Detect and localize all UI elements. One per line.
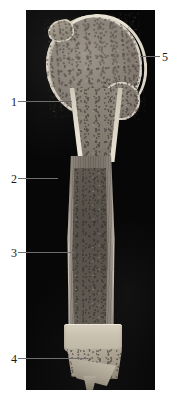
callout-number-5: 5 <box>162 51 168 63</box>
medullary-cavity <box>71 168 109 326</box>
bone-figure: 12345 <box>0 0 175 403</box>
callout-number-3: 3 <box>11 247 17 259</box>
leader-line-2 <box>18 178 58 179</box>
leader-line-5 <box>140 56 160 57</box>
trabecular-texture-medullary <box>71 168 109 326</box>
bone-specimen-image <box>26 10 155 390</box>
callout-number-2: 2 <box>11 173 17 185</box>
callout-number-4: 4 <box>11 353 17 365</box>
leader-line-4 <box>18 358 88 359</box>
leader-line-3 <box>18 252 75 253</box>
bone-distal-metaphysis <box>64 324 122 352</box>
leader-line-1 <box>18 101 72 102</box>
specimen-photo-panel <box>26 10 155 390</box>
callout-number-1: 1 <box>11 96 17 108</box>
